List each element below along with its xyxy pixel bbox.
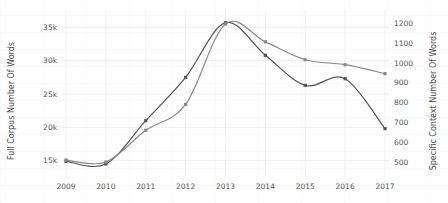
svg-text:15k: 15k [43, 156, 58, 165]
line-chart: 200920102011201220132014201520162017 15k… [0, 0, 448, 203]
svg-text:500: 500 [394, 158, 409, 167]
left-axis-title: Full Corpus Number Of Words [7, 42, 16, 160]
gridlines [62, 10, 389, 177]
svg-text:2012: 2012 [176, 182, 195, 191]
chart-container: 200920102011201220132014201520162017 15k… [0, 0, 448, 203]
svg-text:2013: 2013 [216, 182, 235, 191]
svg-text:2017: 2017 [375, 182, 394, 191]
x-axis-tick-labels: 200920102011201220132014201520162017 [56, 182, 394, 191]
svg-text:2014: 2014 [256, 182, 275, 191]
svg-text:2016: 2016 [336, 182, 355, 191]
svg-text:2011: 2011 [136, 182, 155, 191]
svg-text:20k: 20k [43, 123, 58, 132]
svg-text:2015: 2015 [296, 182, 315, 191]
svg-text:1100: 1100 [394, 39, 413, 48]
svg-text:900: 900 [394, 78, 409, 87]
left-axis-tick-labels: 15k20k25k30k35k [43, 23, 58, 165]
svg-text:2009: 2009 [56, 182, 75, 191]
svg-text:600: 600 [394, 138, 409, 147]
svg-text:30k: 30k [43, 56, 58, 65]
svg-text:800: 800 [394, 98, 409, 107]
svg-text:700: 700 [394, 118, 409, 127]
right-axis-title: Specific Context Number Of Words [429, 32, 438, 171]
svg-text:25k: 25k [43, 90, 58, 99]
svg-text:1000: 1000 [394, 59, 413, 68]
svg-text:35k: 35k [43, 23, 58, 32]
right-axis-tick-labels: 500600700800900100011001200 [394, 19, 413, 167]
svg-text:1200: 1200 [394, 19, 413, 28]
svg-text:2010: 2010 [96, 182, 115, 191]
